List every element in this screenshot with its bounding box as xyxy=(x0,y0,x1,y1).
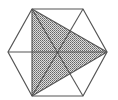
hexagon-diagram xyxy=(0,0,118,100)
diagonal-lines xyxy=(8,9,107,96)
